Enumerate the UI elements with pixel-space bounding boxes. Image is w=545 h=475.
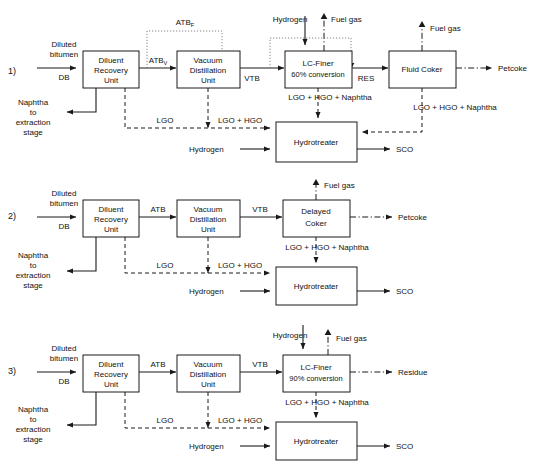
row-3-lgohgo-label: LGO + HGO bbox=[218, 416, 262, 425]
row-1-dru-line1: Diluent bbox=[99, 56, 125, 65]
row-2-dru-line1: Diluent bbox=[99, 205, 125, 214]
row-1-lgohgo-label: LGO + HGO bbox=[218, 116, 262, 125]
row-3-fuelgas-label: Fuel gas bbox=[336, 334, 367, 343]
row-1-lgo-label: LGO bbox=[157, 116, 174, 125]
row-2-naphtha-line bbox=[67, 237, 96, 271]
row-1-fuelgas-coker-arrowhead bbox=[419, 21, 426, 27]
row-3-vdu-line2: Distillation bbox=[190, 370, 226, 379]
row-2-coker-products-label: LGO + HGO + Naphtha bbox=[285, 243, 369, 252]
row-1-naphtha-l1: Naphtha bbox=[18, 98, 49, 107]
row-2-configuration: 2) Diluted bitumen DB Diluent Recovery U… bbox=[8, 179, 427, 305]
row-2-naphtha-l4: stage bbox=[23, 281, 43, 290]
row-1-res-label: RES bbox=[358, 74, 374, 83]
row-3-lcfiner-line1: LC-Finer bbox=[300, 363, 331, 372]
row-1-lcfiner-line1: LC-Finer bbox=[302, 59, 333, 68]
row-3-vdu-line3: Unit bbox=[201, 380, 216, 389]
row-3-atb-label: ATB bbox=[151, 360, 166, 369]
row-1-coker-products-label: LGO + HGO + Naphtha bbox=[413, 103, 497, 112]
row-3-hydrogen-ht-label: Hydrogen bbox=[189, 442, 224, 451]
row-1-hydrogen-ht-label: Hydrogen bbox=[189, 145, 224, 154]
row-3-dru-line2: Recovery bbox=[94, 370, 128, 379]
row-2-number: 2) bbox=[8, 211, 16, 221]
row-3-lcfiner-products-label: LGO + HGO + Naphtha bbox=[285, 398, 369, 407]
row-1-naphtha-l2: to bbox=[30, 108, 37, 117]
row-2-lgohgo-label: LGO + HGO bbox=[218, 261, 262, 270]
row-1-vdu-line2: Distillation bbox=[190, 66, 226, 75]
row-1-configuration: 1) Diluted bitumen DB Diluent Recovery U… bbox=[8, 13, 527, 162]
row-2-naphtha-l2: to bbox=[30, 261, 37, 270]
row-1-feed-line2: bitumen bbox=[50, 50, 78, 59]
row-2-vdu-line2: Distillation bbox=[190, 215, 226, 224]
row-3-naphtha-l4: stage bbox=[23, 435, 43, 444]
row-3-naphtha-line bbox=[67, 392, 96, 425]
row-3-lcfiner-line2: 90% conversion bbox=[289, 374, 342, 383]
row-1-hydrogen-label: Hydrogen bbox=[273, 15, 308, 24]
row-2-fuelgas-label: Fuel gas bbox=[324, 181, 355, 190]
row-1-petcoke-label: Petcoke bbox=[498, 64, 527, 73]
row-1-dru-line3: Unit bbox=[104, 76, 119, 85]
row-1-coker-line1: Fluid Coker bbox=[402, 65, 443, 74]
row-3-lgo-label: LGO bbox=[157, 416, 174, 425]
row-2-vtb-label: VTB bbox=[252, 205, 268, 214]
row-2-sco-label: SCO bbox=[396, 287, 413, 296]
row-2-atb-label: ATB bbox=[151, 205, 166, 214]
row-3-configuration: 3) Diluted bitumen DB Diluent Recovery U… bbox=[8, 325, 428, 460]
row-2-feed-line2: bitumen bbox=[50, 199, 78, 208]
row-3-hydrogen-label: Hydrogen bbox=[273, 331, 308, 340]
row-2-feed-line1: Diluted bbox=[52, 189, 77, 198]
row-1-feed-abbr: DB bbox=[58, 73, 69, 82]
row-2-vdu-line3: Unit bbox=[201, 225, 216, 234]
row-1-number: 1) bbox=[8, 66, 16, 76]
row-3-vdu-line1: Vacuum bbox=[194, 360, 223, 369]
row-1-lcfiner-products-label: LGO + HGO + Naphtha bbox=[288, 93, 372, 102]
row-1-dru-line2: Recovery bbox=[94, 66, 128, 75]
row-2-naphtha-l3: extraction bbox=[16, 271, 51, 280]
row-3-sco-label: SCO bbox=[396, 442, 413, 451]
row-2-fuelgas-arrowhead bbox=[313, 179, 320, 185]
row-3-naphtha-l3: extraction bbox=[16, 425, 51, 434]
process-flow-diagram: 1) Diluted bitumen DB Diluent Recovery U… bbox=[0, 0, 545, 475]
row-2-lgo-label: LGO bbox=[157, 261, 174, 270]
row-1-fuelgas-coker-label: Fuel gas bbox=[430, 24, 461, 33]
row-2-hydrotreater-label: Hydrotreater bbox=[294, 282, 339, 291]
row-2-feed-abbr: DB bbox=[58, 222, 69, 231]
row-2-naphtha-l1: Naphtha bbox=[18, 251, 49, 260]
row-2-petcoke-label: Petcoke bbox=[398, 213, 427, 222]
row-3-residue-label: Residue bbox=[398, 368, 428, 377]
row-3-dru-line1: Diluent bbox=[99, 360, 125, 369]
row-3-naphtha-l2: to bbox=[30, 415, 37, 424]
row-2-dru-line2: Recovery bbox=[94, 215, 128, 224]
row-2-coker-line2: Coker bbox=[305, 219, 327, 228]
row-1-feed-line1: Diluted bbox=[52, 40, 77, 49]
row-1-lcfiner-line2: 60% conversion bbox=[291, 70, 344, 79]
row-3-vtb-label: VTB bbox=[252, 360, 268, 369]
row-3-number: 3) bbox=[8, 366, 16, 376]
row-1-atbf-label: ATBF bbox=[176, 18, 195, 28]
row-1-fuelgas-lcfiner-arrowhead bbox=[321, 13, 328, 19]
row-3-dru-line3: Unit bbox=[104, 380, 119, 389]
row-1-atbv-label: ATBV bbox=[149, 56, 168, 66]
row-1-sco-label: SCO bbox=[396, 145, 413, 154]
row-3-feed-line2: bitumen bbox=[50, 354, 78, 363]
row-2-coker-line1: Delayed bbox=[301, 207, 330, 216]
row-1-naphtha-line bbox=[67, 88, 96, 112]
row-3-hydrotreater-label: Hydrotreater bbox=[294, 437, 339, 446]
row-3-naphtha-l1: Naphtha bbox=[18, 405, 49, 414]
row-3-feed-abbr: DB bbox=[58, 377, 69, 386]
row-3-feed-line1: Diluted bbox=[52, 344, 77, 353]
row-2-vdu-line1: Vacuum bbox=[194, 205, 223, 214]
row-2-hydrogen-ht-label: Hydrogen bbox=[189, 287, 224, 296]
row-1-vtb-label: VTB bbox=[244, 74, 260, 83]
row-1-fuelgas-lcfiner-label: Fuel gas bbox=[331, 15, 362, 24]
row-3-fuelgas-arrowhead bbox=[325, 329, 332, 335]
row-2-dru-line3: Unit bbox=[104, 225, 119, 234]
row-1-hydrotreater-label: Hydrotreater bbox=[294, 138, 339, 147]
row-1-vdu-line1: Vacuum bbox=[194, 56, 223, 65]
row-1-naphtha-l3: extraction bbox=[16, 118, 51, 127]
row-1-vdu-line3: Unit bbox=[201, 76, 216, 85]
row-1-naphtha-l4: stage bbox=[23, 128, 43, 137]
